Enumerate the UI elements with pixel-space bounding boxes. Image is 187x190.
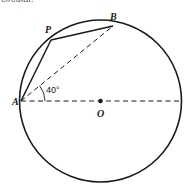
dashed-chord-ab [21, 26, 113, 101]
point-label-a: A [11, 96, 19, 107]
point-label-p: P [45, 24, 52, 35]
angle-arc-40 [40, 86, 45, 101]
geometry-figure: circular. A P B O 40° [0, 0, 187, 190]
point-label-b: B [109, 11, 117, 22]
point-label-o: O [97, 108, 104, 119]
solid-chord-pb [51, 26, 113, 40]
circle-geometry-svg: A P B O 40° [0, 0, 187, 190]
angle-label-40-degrees: 40° [46, 85, 60, 95]
center-point-dot [98, 99, 102, 103]
